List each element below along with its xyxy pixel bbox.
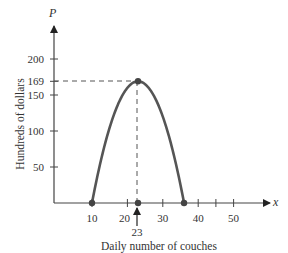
y-tick-label: 100 <box>28 125 45 137</box>
x-tick-label: 20 <box>119 212 131 224</box>
y-axis-symbol: P <box>48 6 57 20</box>
data-point <box>181 200 187 206</box>
y-tick-label: 50 <box>33 161 45 173</box>
data-point <box>89 200 95 206</box>
profit-curve <box>92 81 184 203</box>
x-tick-label: 30 <box>157 212 169 224</box>
marked-points <box>89 78 187 206</box>
x-tick-label: 40 <box>193 212 205 224</box>
vertex-x-label: 23 <box>132 226 144 238</box>
y-tick-label: 169 <box>28 75 45 87</box>
data-point <box>135 200 141 206</box>
y-tick-label: 200 <box>28 53 45 65</box>
x-tick-label: 50 <box>228 212 240 224</box>
x-tick-label: 10 <box>87 212 99 224</box>
y-axis-label: Hundreds of dollars <box>14 78 26 170</box>
data-point <box>135 78 141 84</box>
x-axis-label: Daily number of couches <box>101 240 217 253</box>
y-tick-label: 150 <box>28 89 45 101</box>
x-axis-symbol: x <box>272 195 279 209</box>
chart: P x 50100150169200 1020304050 23 Daily n… <box>0 0 288 253</box>
